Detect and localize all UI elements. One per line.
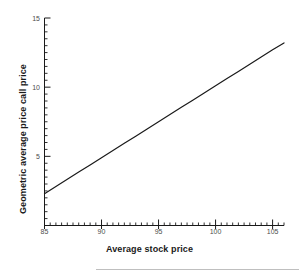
y-axis-title: Geometric average price call price <box>18 14 28 214</box>
footer-divider <box>96 269 299 270</box>
data-series-group <box>45 43 285 194</box>
x-axis-ticks <box>45 220 285 230</box>
y-tick-label: 15 <box>24 15 40 22</box>
x-tick-label: 100 <box>210 228 222 235</box>
y-tick-label: 10 <box>24 84 40 91</box>
x-axis-title: Average stock price <box>0 244 299 254</box>
x-tick-label: 90 <box>98 228 106 235</box>
axis-spines <box>44 18 284 226</box>
x-tick-label: 95 <box>155 228 163 235</box>
y-tick-label: 5 <box>24 153 40 160</box>
y-axis-ticks <box>45 18 51 226</box>
chart-figure: Average stock price Geometric average pr… <box>0 0 299 275</box>
data-line-series <box>45 43 285 194</box>
x-tick-label: 105 <box>267 228 279 235</box>
x-tick-label: 85 <box>41 228 49 235</box>
